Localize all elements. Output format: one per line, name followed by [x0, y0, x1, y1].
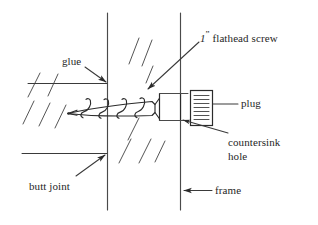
glue-leader-arrow	[85, 67, 106, 82]
butt-joint-leader-arrow	[76, 155, 105, 176]
wood-grain-hatch-group	[23, 38, 165, 163]
label-screw-callout: 1” flathead screw	[200, 29, 278, 44]
label-countersink-hole: countersink hole	[228, 135, 316, 163]
grain-stroke	[146, 66, 153, 83]
grain-stroke	[55, 105, 66, 128]
grain-stroke	[23, 101, 34, 124]
grain-stroke	[39, 103, 50, 126]
grain-stroke	[129, 38, 139, 64]
label-glue: glue	[62, 55, 81, 68]
grain-stroke	[48, 74, 58, 96]
label-countersink-hole-line2: hole	[228, 149, 316, 163]
plug-grain-lines	[194, 96, 209, 120]
grain-stroke	[142, 40, 152, 66]
grain-stroke	[28, 73, 40, 97]
grain-stroke	[139, 139, 151, 163]
label-butt-joint: butt joint	[29, 180, 70, 193]
label-plug: plug	[241, 97, 261, 110]
plug-group	[191, 91, 213, 126]
label-frame: frame	[215, 184, 241, 197]
grain-stroke	[119, 139, 131, 163]
screw-tip-node	[67, 112, 70, 115]
label-screw-measure-unit: ”	[206, 29, 210, 39]
screw-thread-loop	[135, 98, 145, 118]
screw-thread-loop	[117, 99, 127, 119]
screw-head	[160, 94, 181, 121]
screw-callout-arrow	[148, 42, 199, 89]
label-countersink-hole-line1: countersink	[228, 135, 316, 149]
diagram-canvas: glue 1” flathead screw plug countersink …	[0, 0, 318, 225]
grain-stroke	[155, 141, 165, 162]
flathead-screw-group	[67, 94, 180, 121]
grain-stroke	[128, 118, 139, 140]
label-screw-name: flathead screw	[212, 32, 277, 44]
